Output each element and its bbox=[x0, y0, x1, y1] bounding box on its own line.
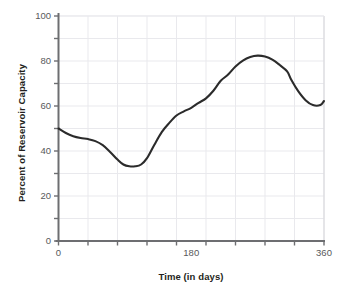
x-axis-tick-label: 360 bbox=[304, 247, 344, 258]
x-axis-tick-label: 180 bbox=[171, 247, 211, 258]
x-axis-tick-labels: 0180360 bbox=[0, 0, 346, 295]
x-axis-title: Time (in days) bbox=[58, 271, 324, 282]
y-axis-title: Percent of Reservoir Capacity bbox=[14, 18, 30, 248]
x-axis-tick-label: 0 bbox=[39, 247, 79, 258]
reservoir-capacity-line-chart: 100806040200 0180360 Percent of Reservoi… bbox=[0, 0, 346, 295]
